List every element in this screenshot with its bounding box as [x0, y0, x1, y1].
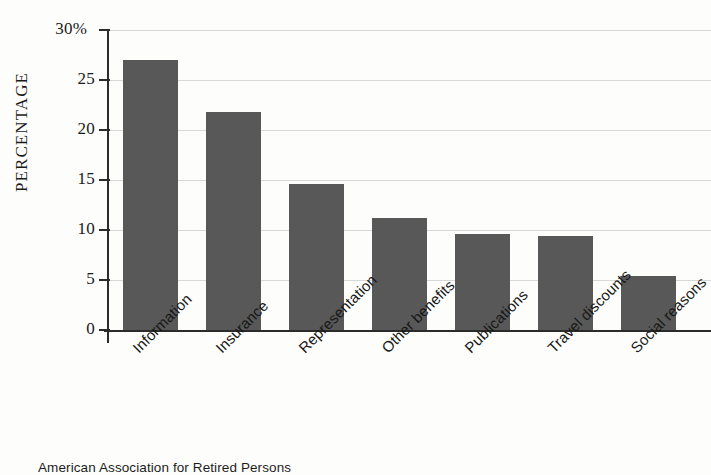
- bar: [123, 60, 178, 330]
- y-axis-tick-label: 30%: [29, 19, 87, 39]
- y-axis-tick-label: 25: [37, 69, 95, 89]
- x-axis-origin-tick: [107, 330, 109, 343]
- y-axis-tick-label: 15: [37, 169, 95, 189]
- y-axis-tick-label: 20: [37, 119, 95, 139]
- y-axis-tick-label: 10: [37, 219, 95, 239]
- source-caption: American Association for Retired Persons: [38, 460, 291, 475]
- bar-chart-figure: 051015202530% PERCENTAGE InformationInsu…: [0, 0, 711, 475]
- y-axis-title: PERCENTAGE: [12, 57, 32, 207]
- y-axis-tick-label: 5: [37, 269, 95, 289]
- bar: [206, 112, 261, 330]
- y-axis-tick-label: 0: [37, 319, 95, 339]
